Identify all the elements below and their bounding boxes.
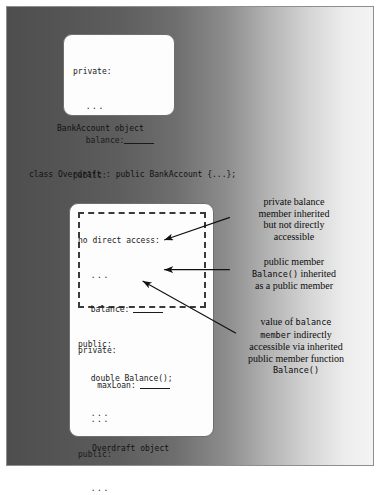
code-line: ... [78, 414, 170, 426]
annotation-line: accessible [229, 231, 359, 243]
annotation-line: as a public member [229, 280, 359, 292]
annotation-line: public member function [221, 353, 371, 365]
annotation-private-balance: private balance member inherited but not… [229, 196, 359, 242]
annotation-text: inherited [298, 268, 336, 279]
code-text: ... [91, 415, 110, 424]
annotation-line: Balance() [221, 364, 371, 377]
code-line: balance: [73, 135, 168, 147]
balance-value-blank [133, 312, 163, 313]
code-line: ... [73, 101, 168, 113]
code-line: ... [78, 270, 173, 282]
bankaccount-object-panel: private: ... balance: public: double Bal… [63, 34, 175, 116]
code-text: maxLoan: [97, 381, 136, 390]
code-line: balance: [78, 304, 173, 316]
overdraft-object-panel: no direct access: ... balance: public: d… [69, 203, 214, 437]
annotation-line: member inherited [229, 208, 359, 220]
code-text: ... [91, 271, 110, 280]
class-declaration-text: class Overdraft : public BankAccount {..… [29, 170, 236, 179]
bankaccount-object-caption: BankAccount object [57, 124, 144, 133]
annotation-text: value of [261, 316, 296, 327]
annotation-code-text: Balance() [252, 269, 298, 279]
code-text: private: [73, 67, 112, 76]
figure-frame: private: ... balance: public: double Bal… [6, 6, 374, 466]
annotation-value-of-balance: value of balance member indirectly acces… [221, 316, 371, 377]
code-line: private: [78, 345, 170, 357]
annotation-line: value of balance [221, 316, 371, 329]
own-members-code-block: private: maxLoan: ... public: ... [78, 322, 170, 495]
code-line: private: [73, 66, 168, 78]
code-text: private: [78, 346, 117, 355]
annotation-line: public member [229, 256, 359, 268]
annotation-line: but not directly [229, 219, 359, 231]
annotation-code-text: balance [296, 317, 332, 327]
annotation-line: Balance() inherited [229, 268, 359, 281]
overdraft-object-caption: Overdraft object [92, 444, 169, 453]
code-text: balance: [91, 305, 130, 314]
annotation-line: member indirectly [221, 329, 371, 342]
annotation-code-text: Balance() [273, 365, 319, 375]
code-line: no direct access: [78, 235, 173, 247]
annotation-line: accessible via inherited [221, 341, 371, 353]
maxloan-value-blank [140, 388, 170, 389]
code-text: ... [91, 484, 110, 493]
code-line: maxLoan: [78, 380, 170, 392]
code-text: ... [86, 102, 105, 111]
annotation-line: private balance [229, 196, 359, 208]
code-text: balance: [86, 136, 125, 145]
balance-value-blank [124, 143, 154, 144]
code-text: no direct access: [78, 236, 160, 245]
annotation-text: indirectly [291, 329, 332, 340]
code-line: ... [78, 483, 170, 495]
annotation-code-text: member [260, 330, 291, 340]
annotation-public-member: public member Balance() inherited as a p… [229, 256, 359, 292]
